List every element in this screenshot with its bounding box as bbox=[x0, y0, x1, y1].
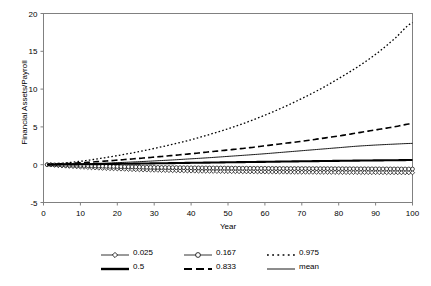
legend-swatch bbox=[183, 261, 213, 273]
legend-item-0_025[interactable]: 0.025 bbox=[100, 246, 183, 260]
legend-label: 0.025 bbox=[133, 247, 153, 259]
series-0_833 bbox=[47, 124, 412, 165]
legend-item-0_167[interactable]: 0.167 bbox=[183, 246, 266, 260]
legend-label: 0.167 bbox=[216, 247, 236, 259]
legend-row: 0.0250.1670.975 bbox=[100, 246, 350, 260]
legend-swatch-icon bbox=[100, 263, 130, 275]
legend-item-0_975[interactable]: 0.975 bbox=[266, 246, 349, 260]
legend-label: 0.5 bbox=[133, 261, 144, 273]
y-tick-label: -5 bbox=[30, 199, 38, 208]
legend-label: 0.833 bbox=[216, 261, 236, 273]
x-tick-label: 70 bbox=[297, 209, 306, 218]
chart-legend: 0.0250.1670.9750.50.833mean bbox=[100, 246, 350, 274]
legend-item-0_833[interactable]: 0.833 bbox=[183, 260, 266, 274]
legend-swatch bbox=[100, 247, 130, 259]
legend-swatch bbox=[266, 261, 296, 273]
y-tick-label: 10 bbox=[29, 85, 38, 94]
chart-plot-area: -5051015200102030405060708090100 bbox=[0, 0, 431, 286]
x-tick-label: 30 bbox=[150, 209, 159, 218]
chart-figure: -5051015200102030405060708090100 Financi… bbox=[0, 0, 431, 286]
series-0_5 bbox=[47, 160, 412, 165]
legend-item-mean[interactable]: mean bbox=[266, 260, 349, 274]
legend-swatch-icon bbox=[266, 263, 296, 275]
y-axis-title: Financial Assets/Payroll bbox=[20, 33, 29, 173]
legend-label: mean bbox=[299, 261, 319, 273]
legend-swatch-icon bbox=[183, 263, 213, 275]
x-tick-label: 50 bbox=[224, 209, 233, 218]
x-tick-label: 90 bbox=[371, 209, 380, 218]
x-axis-title: Year bbox=[43, 222, 413, 231]
x-tick-label: 0 bbox=[41, 209, 46, 218]
x-tick-label: 10 bbox=[76, 209, 85, 218]
legend-item-0_5[interactable]: 0.5 bbox=[100, 260, 183, 274]
legend-swatch bbox=[183, 247, 213, 259]
y-tick-label: 20 bbox=[29, 10, 38, 19]
y-tick-label: 15 bbox=[29, 47, 38, 56]
x-tick-label: 80 bbox=[334, 209, 343, 218]
legend-swatch bbox=[266, 247, 296, 259]
legend-label: 0.975 bbox=[299, 247, 319, 259]
x-tick-label: 60 bbox=[260, 209, 269, 218]
x-tick-label: 100 bbox=[406, 209, 420, 218]
y-tick-label: 0 bbox=[33, 161, 38, 170]
series-0_975 bbox=[47, 23, 412, 165]
x-tick-label: 40 bbox=[187, 209, 196, 218]
y-tick-label: 5 bbox=[33, 123, 38, 132]
legend-row: 0.50.833mean bbox=[100, 260, 350, 274]
x-tick-label: 20 bbox=[113, 209, 122, 218]
legend-swatch bbox=[100, 261, 130, 273]
